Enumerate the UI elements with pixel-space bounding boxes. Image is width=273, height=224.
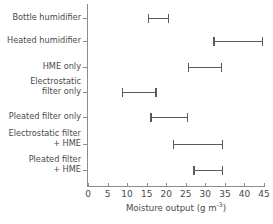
category-label-line-1: Heated humidifier — [7, 36, 81, 46]
x-tick-5 — [108, 183, 109, 187]
y-tick-3 — [83, 92, 88, 93]
x-tick-20 — [166, 183, 167, 187]
x-tick-35 — [225, 183, 226, 187]
interval-cap-high — [155, 88, 156, 97]
interval-line — [193, 170, 223, 171]
y-tick-2 — [83, 67, 88, 68]
interval-cap-high — [187, 113, 188, 122]
x-tick-label-35: 35 — [219, 189, 230, 200]
y-tick-6 — [83, 170, 88, 171]
y-tick-1 — [83, 41, 88, 42]
interval-bar-hme-only — [188, 63, 222, 72]
x-tick-label-40: 40 — [239, 189, 250, 200]
x-tick-15 — [147, 183, 148, 187]
moisture-output-chart: Bottle humidifier Heated humidifier — [0, 0, 273, 224]
x-tick-label-10: 10 — [121, 189, 132, 200]
interval-bar-pleated-filter-plus-hme — [193, 166, 223, 175]
interval-bar-electrostatic-filter-only — [122, 88, 157, 97]
x-tick-label-45: 45 — [258, 189, 269, 200]
x-tick-40 — [244, 183, 245, 187]
interval-bar-bottle-humidifier — [148, 14, 169, 23]
interval-bar-pleated-filter-only — [150, 113, 188, 122]
x-tick-label-20: 20 — [160, 189, 171, 200]
x-tick-label-30: 30 — [200, 189, 211, 200]
x-tick-label-15: 15 — [141, 189, 152, 200]
interval-cap-high — [222, 140, 223, 149]
category-label-heated-humidifier: Heated humidifier — [7, 36, 81, 46]
category-label-line-2: + HME — [8, 139, 81, 149]
x-tick-label-5: 5 — [105, 189, 111, 200]
category-label-hme-only: HME only — [43, 62, 81, 72]
category-label-bottle-humidifier: Bottle humidifier — [12, 13, 81, 23]
interval-line — [188, 67, 222, 68]
x-tick-25 — [186, 183, 187, 187]
x-tick-label-25: 25 — [180, 189, 191, 200]
interval-line — [173, 144, 223, 145]
x-tick-0 — [88, 183, 89, 187]
y-tick-4 — [83, 117, 88, 118]
interval-cap-high — [222, 166, 223, 175]
interval-line — [148, 18, 169, 19]
x-tick-30 — [205, 183, 206, 187]
category-label-electrostatic-filter-plus-hme: Electrostatic filter + HME — [8, 129, 81, 149]
category-label-line-1: Bottle humidifier — [12, 13, 81, 23]
interval-bar-electrostatic-filter-plus-hme — [173, 140, 223, 149]
interval-line — [122, 92, 157, 93]
plot-area: Bottle humidifier Heated humidifier — [88, 4, 264, 186]
interval-cap-high — [262, 37, 263, 46]
interval-cap-high — [221, 63, 222, 72]
x-tick-label-0: 0 — [85, 189, 91, 200]
x-axis-spine — [87, 186, 264, 187]
category-label-pleated-filter-plus-hme: Pleated filter + HME — [29, 155, 81, 175]
category-label-line-2: filter only — [30, 87, 81, 97]
y-tick-5 — [83, 144, 88, 145]
category-label-line-2: + HME — [29, 165, 81, 175]
x-tick-45 — [264, 183, 265, 187]
y-tick-0 — [83, 18, 88, 19]
interval-line — [150, 117, 188, 118]
interval-line — [213, 41, 263, 42]
category-label-line-1: HME only — [43, 62, 81, 72]
interval-cap-high — [168, 14, 169, 23]
interval-bar-heated-humidifier — [213, 37, 263, 46]
x-axis-title-base: Moisture output (g m — [126, 203, 217, 213]
category-label-electrostatic-filter-only: Electrostatic filter only — [30, 77, 81, 97]
category-label-pleated-filter-only: Pleated filter only — [9, 112, 81, 122]
x-axis-title-tail: ) — [223, 203, 226, 213]
x-axis-title: Moisture output (g m-3) — [88, 203, 264, 213]
x-tick-10 — [127, 183, 128, 187]
category-label-line-1: Pleated filter only — [9, 112, 81, 122]
